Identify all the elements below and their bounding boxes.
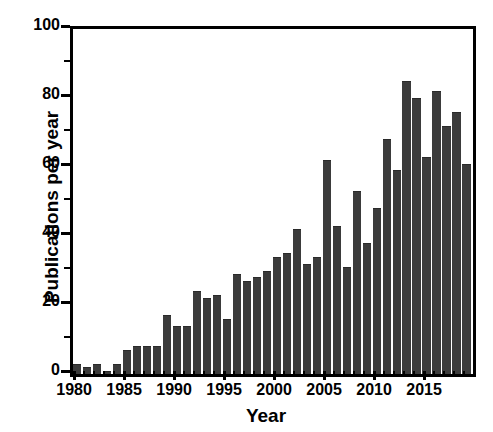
x-tick-minor [133,371,135,376]
x-tick-minor [153,371,155,376]
y-axis-tick-labels: 020406080100 [6,26,60,371]
x-tick-minor [433,371,435,376]
x-tick-major [73,371,76,380]
plot-area [70,26,476,377]
x-tick-minor [463,371,465,376]
x-tick-minor [363,371,365,376]
bar [223,319,231,374]
publications-per-year-bar-chart: Publications per year 020406080100 19801… [0,0,493,432]
x-tick-minor [203,371,205,376]
bar [293,229,301,374]
bar [402,81,410,374]
bar [422,157,430,374]
bar [432,91,440,374]
bar [373,208,381,374]
bar [283,253,291,374]
y-tick-label: 60 [14,155,60,171]
x-tick-major [423,371,426,380]
bar [363,243,371,374]
x-tick-minor [333,371,335,376]
x-tick-minor [253,371,255,376]
x-tick-minor [303,371,305,376]
x-tick-major [173,371,176,380]
bar-series [73,29,473,374]
x-tick-minor [243,371,245,376]
y-tick-label: 20 [14,293,60,309]
x-tick-minor [143,371,145,376]
bar [452,112,460,374]
bar [233,274,241,374]
x-tick-minor [353,371,355,376]
x-tick-minor [403,371,405,376]
x-tick-minor [453,371,455,376]
bar [412,98,420,374]
y-tick-major [61,94,70,97]
bar [243,281,251,374]
x-tick-minor [193,371,195,376]
x-tick-major [373,371,376,380]
bar [133,346,141,374]
x-tick-minor [443,371,445,376]
bar [263,271,271,375]
bar [183,326,191,374]
y-tick-major [61,301,70,304]
y-tick-label: 40 [14,224,60,240]
y-tick-major [61,25,70,28]
x-tick-major [123,371,126,380]
x-tick-minor [383,371,385,376]
bar [393,170,401,374]
x-tick-minor [83,371,85,376]
y-tick-label: 0 [14,362,60,378]
bar [213,295,221,374]
y-tick-major [61,370,70,373]
x-tick-major [223,371,226,380]
bar [333,226,341,374]
x-tick-minor [293,371,295,376]
y-tick-label: 100 [14,17,60,33]
bar [153,346,161,374]
bar [193,291,201,374]
x-tick-minor [183,371,185,376]
bar [343,267,351,374]
bar [462,164,470,374]
bar [203,298,211,374]
bar [353,191,361,374]
x-tick-minor [103,371,105,376]
y-tick-major [61,163,70,166]
bar [253,277,261,374]
bar [273,257,281,374]
bar [442,126,450,374]
bar [313,257,321,374]
x-tick-minor [283,371,285,376]
bar [383,139,391,374]
y-tick-major [61,232,70,235]
x-tick-minor [113,371,115,376]
x-tick-minor [343,371,345,376]
bar [303,264,311,374]
bar [173,326,181,374]
bar [323,160,331,374]
x-tick-major [273,371,276,380]
bar [163,315,171,374]
x-tick-minor [313,371,315,376]
y-tick-label: 80 [14,86,60,102]
x-tick-major [323,371,326,380]
x-tick-minor [413,371,415,376]
bar [143,346,151,374]
x-tick-minor [213,371,215,376]
x-tick-minor [163,371,165,376]
x-tick-minor [393,371,395,376]
x-axis-title: Year [60,405,472,427]
x-tick-minor [93,371,95,376]
x-tick-minor [263,371,265,376]
x-tick-label: 2015 [394,382,454,398]
x-tick-minor [233,371,235,376]
